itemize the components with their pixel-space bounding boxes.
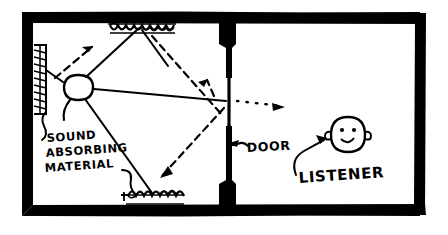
absorbing-material-left — [34, 45, 46, 114]
diagram-canvas: SOUND ABSORBING MATERIAL DOOR LISTENER — [0, 0, 448, 235]
sound-source-oval — [64, 75, 93, 100]
partition-wall — [219, 22, 236, 205]
listener-eye-right — [352, 128, 356, 132]
door-label: DOOR — [246, 138, 290, 155]
listener-eye-left — [340, 128, 344, 132]
label-absorbing-material: SOUND ABSORBING MATERIAL — [44, 128, 128, 175]
listener-label: LISTENER — [298, 163, 385, 187]
transmitted-ray-dotted — [237, 101, 285, 111]
acoustics-diagram: SOUND ABSORBING MATERIAL DOOR LISTENER — [0, 0, 448, 235]
listener-head — [325, 117, 371, 152]
